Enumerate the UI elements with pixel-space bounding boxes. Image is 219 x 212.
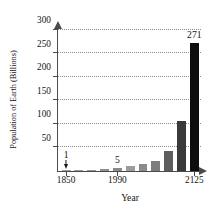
y-tick-label: 200 [37,62,51,72]
annotation-label: 1 [64,149,69,160]
plot-area: 50100150200250300 185019902125 15271 [57,24,203,172]
bar [164,151,173,171]
bar [151,161,160,170]
y-tick-label: 250 [37,39,51,49]
y-tick-label: 50 [42,133,51,143]
x-axis-title: Year [57,192,203,203]
y-axis-title: Population of Earth (Billions) [9,20,18,180]
annotation-arrow-icon [64,164,68,169]
bars-group [58,25,199,171]
x-tick-label: 2125 [185,175,204,185]
bar [87,170,96,171]
x-tick-label: 1850 [57,175,76,185]
bar [126,166,135,171]
y-tick-label: 100 [37,109,51,119]
x-axis-line [57,171,199,172]
bar [74,170,83,171]
y-tick-label: 150 [37,86,51,96]
x-axis-arrowhead [199,167,207,175]
bar [100,169,109,171]
annotation-label: 5 [115,154,120,165]
annotation-arrow-stem [66,160,67,164]
population-bar-chart-figure: Population of Earth (Billions) 501001502… [0,0,219,212]
bar [177,121,186,170]
x-tick-label: 1990 [108,175,127,185]
y-tick-label: 300 [37,15,51,25]
bar [190,43,199,171]
bar [139,164,148,171]
annotation-label: 271 [187,29,201,40]
